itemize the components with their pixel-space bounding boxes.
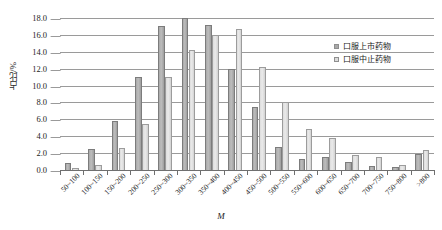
- bar: [329, 138, 336, 170]
- bar: [112, 121, 119, 170]
- legend-label: 口服中止药物: [343, 56, 391, 64]
- x-axis-tick-label: 650~700: [337, 172, 361, 196]
- x-axis-tick-label: 350~400: [197, 172, 221, 196]
- bar: [376, 157, 383, 170]
- y-axis-tick-label: 16.0: [32, 31, 47, 40]
- bar: [95, 165, 102, 170]
- bar: [135, 77, 142, 170]
- bar: [119, 148, 126, 170]
- bar: [369, 166, 376, 170]
- x-axis-tick-label: 700~750: [361, 172, 385, 196]
- bar-group: [200, 18, 223, 170]
- bar: [236, 29, 243, 170]
- x-axis-title: M: [0, 212, 442, 221]
- bar-group: [154, 18, 177, 170]
- legend-label: 口服上市药物: [343, 43, 391, 51]
- bar: [392, 167, 399, 170]
- bar: [399, 165, 406, 170]
- y-axis-tick-label: 10.0: [32, 81, 47, 90]
- bar: [259, 67, 266, 170]
- legend-item[interactable]: 口服上市药物: [334, 40, 434, 53]
- bar: [352, 155, 359, 170]
- legend-swatch-icon: [334, 44, 339, 49]
- bar: [205, 25, 212, 170]
- bar: [228, 69, 235, 170]
- bar-group: [294, 18, 317, 170]
- legend-swatch-icon: [334, 57, 339, 62]
- x-axis-tick-label: 250~300: [150, 172, 174, 196]
- x-axis-tick-label: 400~450: [220, 172, 244, 196]
- bar: [88, 149, 95, 170]
- bar: [423, 150, 430, 170]
- bar: [72, 168, 79, 170]
- y-axis-tick-label: 12.0: [32, 64, 47, 73]
- bar: [275, 147, 282, 170]
- chart-legend: 口服上市药物口服中止药物: [334, 40, 434, 66]
- bar-group: [270, 18, 293, 170]
- bar: [252, 107, 259, 170]
- y-axis-title: 占比/%: [9, 62, 23, 90]
- x-axis-tick-label: 50~100: [59, 172, 81, 194]
- legend-item[interactable]: 口服中止药物: [334, 53, 434, 66]
- bar-group: [247, 18, 270, 170]
- bar: [282, 102, 289, 170]
- x-axis-tick-label: 450~500: [244, 172, 268, 196]
- bar-group: [83, 18, 106, 170]
- bar-group: [177, 18, 200, 170]
- x-axis-tick-label: 150~200: [103, 172, 127, 196]
- bar-chart: 占比/% 0.02.04.06.08.010.012.014.016.018.0…: [0, 0, 442, 230]
- y-axis-tick-label: 4.0: [36, 132, 47, 141]
- y-axis-tick-label: 2.0: [36, 149, 47, 158]
- x-axis-tick-label: 600~650: [314, 172, 338, 196]
- bar: [299, 159, 306, 170]
- bar-group: [60, 18, 83, 170]
- bar-group: [107, 18, 130, 170]
- x-axis-tick-label: 300~350: [174, 172, 198, 196]
- x-axis-tick-label: 550~600: [290, 172, 314, 196]
- bar: [182, 18, 189, 170]
- y-axis-tick-label: 14.0: [32, 48, 47, 57]
- y-axis-tick-label: 18.0: [32, 14, 47, 23]
- bar: [345, 162, 352, 170]
- bar-group: [130, 18, 153, 170]
- bar: [212, 35, 219, 170]
- bar: [65, 163, 72, 170]
- x-axis-tick-label: >800: [415, 172, 431, 188]
- bar: [142, 124, 149, 170]
- bar: [306, 129, 313, 170]
- y-axis-tick-label: 6.0: [36, 115, 47, 124]
- x-axis-tick-label: 200~250: [127, 172, 151, 196]
- x-axis-tick-label: 500~550: [267, 172, 291, 196]
- x-axis-tick-label: 750~800: [384, 172, 408, 196]
- bar: [322, 157, 329, 170]
- bar: [165, 77, 172, 170]
- bar: [189, 50, 196, 170]
- y-axis-tick-label: 8.0: [36, 98, 47, 107]
- bar-group: [224, 18, 247, 170]
- y-axis-tick-label: 0.0: [36, 166, 47, 175]
- x-axis-tick-label: 100~150: [80, 172, 104, 196]
- bar: [158, 26, 165, 170]
- x-axis-tick: [434, 170, 435, 175]
- bar: [415, 154, 422, 170]
